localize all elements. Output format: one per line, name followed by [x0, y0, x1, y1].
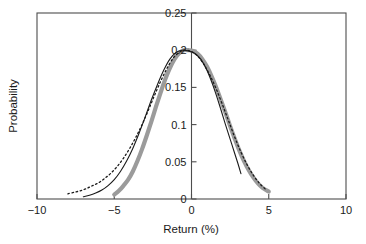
- y-tick-label: 0.1: [171, 119, 186, 131]
- x-tick-label: 5: [266, 204, 272, 216]
- y-axis-title: Probability: [7, 79, 19, 133]
- y-tick-label: 0.05: [165, 156, 186, 168]
- y-tick-label: 0.15: [165, 81, 186, 93]
- chart-figure: −10−5051000.050.10.150.20.25 Return (%) …: [0, 0, 366, 244]
- x-axis-title: Return (%): [163, 223, 219, 235]
- y-tick-label: 0.2: [171, 44, 186, 56]
- x-tick-label: −5: [108, 204, 121, 216]
- plot-frame: [37, 13, 346, 199]
- x-tick-label: 10: [340, 204, 352, 216]
- y-tick-label: 0: [180, 193, 186, 205]
- x-tick-label: −10: [28, 204, 47, 216]
- x-tick-label: 0: [188, 204, 194, 216]
- curve-model-thin-solid-black: [83, 50, 241, 197]
- data-curves: [68, 50, 269, 197]
- axis-tick-labels: −10−5051000.050.10.150.20.25: [28, 7, 352, 216]
- distribution-plot: −10−5051000.050.10.150.20.25 Return (%) …: [0, 0, 366, 244]
- y-tick-label: 0.25: [165, 7, 186, 19]
